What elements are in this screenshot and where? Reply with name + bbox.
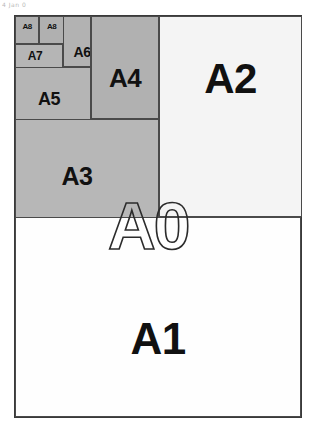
region-a3[interactable]: A3 xyxy=(15,119,159,218)
region-a7-label: A7 xyxy=(28,50,42,62)
region-a8-left-label: A8 xyxy=(22,23,31,31)
region-a1[interactable]: A1 xyxy=(15,217,301,417)
region-a6-label: A6 xyxy=(74,45,91,59)
region-a8-right-label: A8 xyxy=(47,23,56,31)
region-a5-label: A5 xyxy=(38,90,60,108)
region-a6[interactable]: A6 xyxy=(63,16,91,67)
region-a2-label: A2 xyxy=(204,58,257,100)
region-a4-label: A4 xyxy=(109,65,141,91)
region-a8-left[interactable]: A8 xyxy=(15,16,39,44)
region-a3-label: A3 xyxy=(62,164,93,189)
region-a2[interactable]: A2 xyxy=(159,16,302,217)
a-series-paper-diagram: A1 A2 A3 A4 A5 A6 A7 A8 A8 A0 xyxy=(14,15,302,418)
region-a5[interactable]: A5 xyxy=(15,67,91,120)
region-a8-right[interactable]: A8 xyxy=(39,16,64,44)
region-a7[interactable]: A7 xyxy=(15,44,63,68)
region-a1-label: A1 xyxy=(130,317,185,361)
scan-artifact-text: 4 Jan 0 xyxy=(2,1,26,8)
region-a4[interactable]: A4 xyxy=(91,16,159,119)
